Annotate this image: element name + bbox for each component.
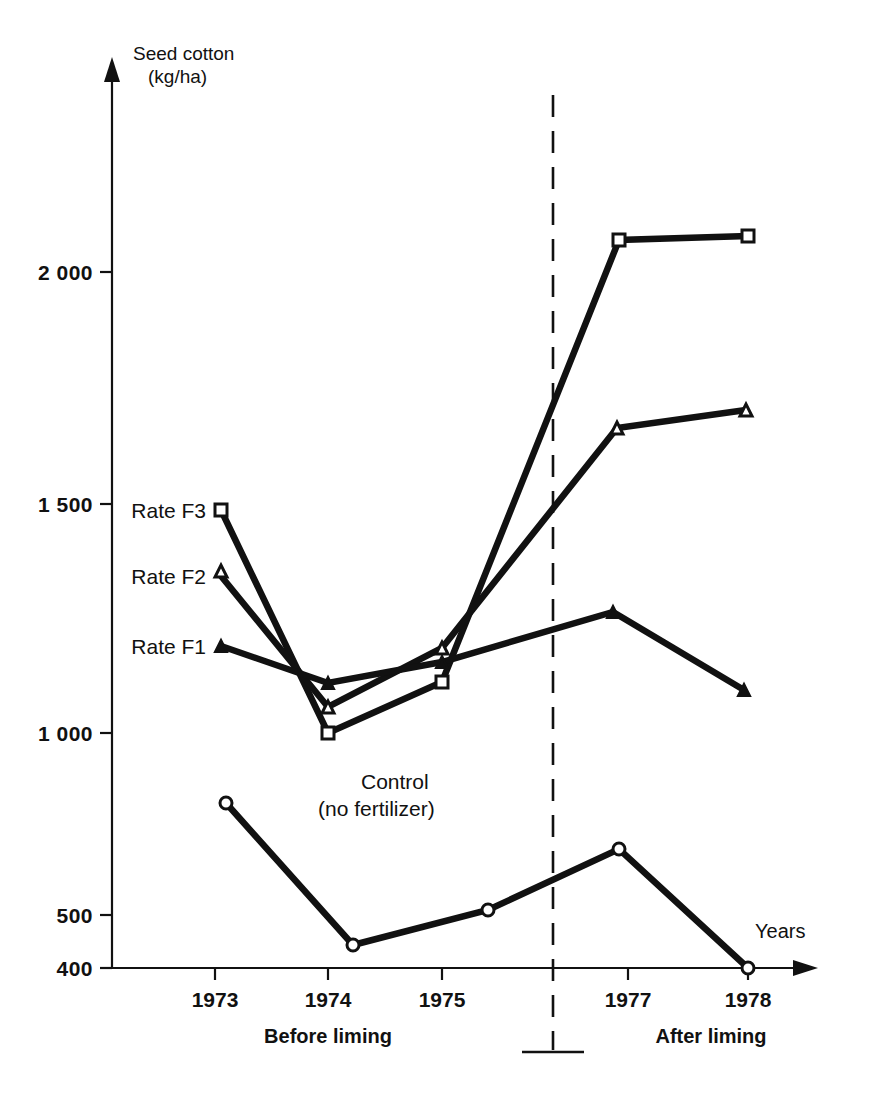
marker-rate-f3-1974	[322, 727, 334, 739]
y-tick-label-400: 400	[56, 957, 93, 980]
legend: Rate F3 Rate F2 Rate F1	[131, 499, 206, 658]
legend-label-rate-f1: Rate F1	[131, 635, 206, 658]
liming-divider	[522, 95, 584, 1052]
y-tick-label-2000: 2 000	[38, 261, 93, 284]
y-axis-arrowhead	[104, 57, 120, 82]
x-tick-label-1975: 1975	[419, 988, 466, 1011]
marker-rate-f1-1977	[607, 606, 619, 618]
marker-control-1977	[613, 843, 625, 855]
y-tick-label-500: 500	[56, 904, 93, 927]
marker-rate-f2-1977	[611, 422, 623, 434]
series-rate-f2	[215, 404, 752, 713]
marker-control-1974	[347, 939, 359, 951]
x-axis-arrowhead	[793, 960, 818, 976]
y-axis-label-line1: Seed cotton	[133, 43, 234, 64]
seed-cotton-line-chart: Seed cotton (kg/ha) Years 2 000 1 500 1 …	[0, 0, 883, 1109]
marker-rate-f2-1978	[740, 404, 752, 416]
x-tick-label-1978: 1978	[725, 988, 772, 1011]
marker-rate-f3-1973	[215, 504, 227, 516]
series-line-rate-f3	[221, 236, 748, 733]
marker-control-1975	[482, 904, 494, 916]
marker-control-1973	[220, 797, 232, 809]
marker-control-1978	[742, 962, 754, 974]
marker-rate-f3-1978	[742, 230, 754, 242]
series-rate-f1	[215, 606, 750, 696]
x-tick-label-1977: 1977	[605, 988, 652, 1011]
y-tick-label-1000: 1 000	[38, 722, 93, 745]
series-line-rate-f2	[221, 410, 746, 707]
marker-rate-f3-1977	[613, 234, 625, 246]
y-tick-label-1500: 1 500	[38, 493, 93, 516]
x-tick-label-1974: 1974	[305, 988, 352, 1011]
marker-rate-f1-1973	[215, 640, 227, 652]
legend-label-rate-f2: Rate F2	[131, 565, 206, 588]
x-axis-label: Years	[755, 920, 805, 942]
annotation-control-line1: Control	[361, 770, 429, 793]
axes-group	[100, 57, 818, 980]
chart-page: Seed cotton (kg/ha) Years 2 000 1 500 1 …	[0, 0, 883, 1109]
marker-rate-f2-1973	[215, 565, 227, 577]
annotation-control-line2: (no fertilizer)	[318, 797, 435, 820]
x-tick-label-1973: 1973	[192, 988, 239, 1011]
marker-rate-f3-1975	[436, 676, 448, 688]
annotation-before-liming: Before liming	[264, 1025, 392, 1047]
legend-label-rate-f3: Rate F3	[131, 499, 206, 522]
y-axis-label-line2: (kg/ha)	[148, 66, 207, 87]
series-control	[220, 797, 754, 974]
series-line-control	[226, 803, 748, 968]
annotation-after-liming: After liming	[655, 1025, 766, 1047]
